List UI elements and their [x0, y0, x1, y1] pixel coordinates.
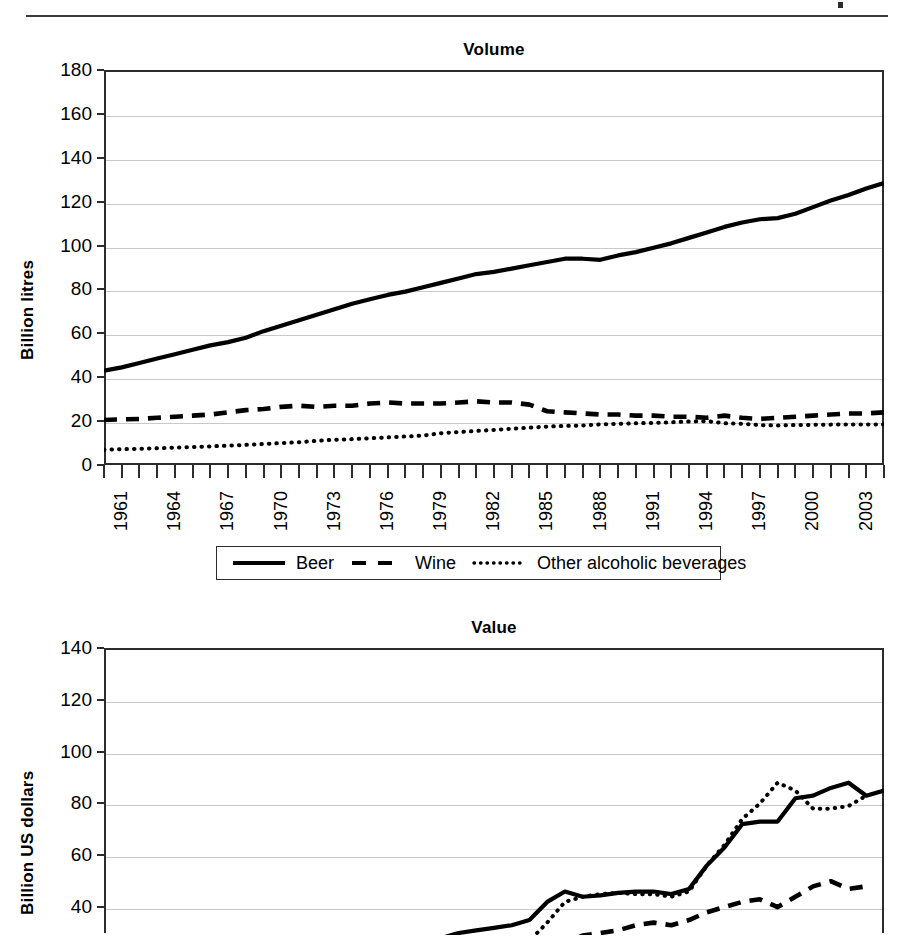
series-line-other [104, 421, 884, 450]
series-line-other [104, 783, 866, 939]
series-layer [0, 610, 914, 939]
page-header-rule [26, 15, 888, 17]
series-line-wine [104, 401, 884, 420]
cropped-header-glyph [838, 2, 843, 8]
chart-volume: Volume Billion litres 020406080100120140… [0, 30, 914, 590]
chart-value: Value Billion US dollars 406080100120140 [0, 610, 914, 933]
series-layer [0, 30, 914, 630]
series-line-beer [104, 183, 884, 371]
series-line-beer [104, 783, 884, 939]
